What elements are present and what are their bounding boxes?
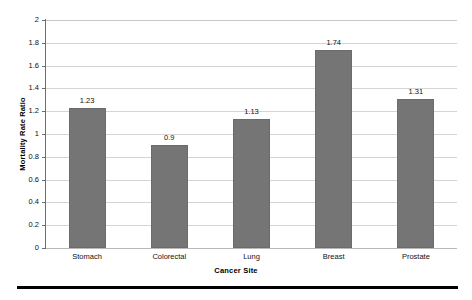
bar xyxy=(69,108,106,248)
bar-value-label: 1.23 xyxy=(55,96,120,105)
y-axis-tick-label: 2 xyxy=(0,16,45,24)
y-axis-tick-label: 1.6 xyxy=(0,62,45,70)
x-axis-category-label: Breast xyxy=(289,252,379,261)
bar-group: 0.9 xyxy=(151,20,188,248)
y-axis-tick-label: 1 xyxy=(0,130,45,138)
bar-group: 1.13 xyxy=(233,20,270,248)
y-axis-tick-label: 0.8 xyxy=(0,153,45,161)
bar-value-label: 1.31 xyxy=(383,87,448,96)
bar xyxy=(397,99,434,248)
bar xyxy=(233,119,270,248)
x-axis-line xyxy=(46,248,457,249)
y-axis-tick-label: 0.2 xyxy=(0,221,45,229)
bar-value-label: 1.74 xyxy=(301,38,366,47)
plot-area: 1.230.91.131.741.31 xyxy=(46,20,457,248)
bar-chart-figure: Mortality Rate Ratio 00.20.40.60.811.21.… xyxy=(0,0,472,300)
y-axis-tick-label: 1.4 xyxy=(0,85,45,93)
bar-value-label: 1.13 xyxy=(219,107,284,116)
bar-group: 1.74 xyxy=(315,20,352,248)
y-axis-tick-label: 0.6 xyxy=(0,176,45,184)
y-axis-tick-label: 1.2 xyxy=(0,107,45,115)
bar xyxy=(151,145,188,248)
y-axis-tick-label: 0.4 xyxy=(0,199,45,207)
x-axis-category-label: Stomach xyxy=(42,252,132,261)
x-axis-category-label: Colorectal xyxy=(124,252,214,261)
x-axis-title: Cancer Site xyxy=(0,266,472,275)
x-axis-category-label: Prostate xyxy=(371,252,461,261)
bar-group: 1.23 xyxy=(69,20,106,248)
bar-group: 1.31 xyxy=(397,20,434,248)
y-axis-tick-label: 1.8 xyxy=(0,39,45,47)
bar xyxy=(315,50,352,248)
bottom-divider-rule xyxy=(17,286,458,289)
bar-value-label: 0.9 xyxy=(137,133,202,142)
y-axis-tick-label: 0 xyxy=(0,244,45,252)
x-axis-category-label: Lung xyxy=(207,252,297,261)
